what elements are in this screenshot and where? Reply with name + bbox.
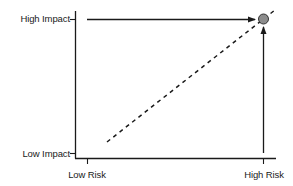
high-risk-high-impact-point [259,14,269,24]
x-axis-low-label: Low Risk [68,170,106,180]
y-axis-low-label: Low Impact [22,149,70,159]
x-axis-high-label: High Risk [244,170,284,180]
y-axis-high-label: High Impact [20,14,70,24]
dashed-trend-line [107,10,275,142]
risk-impact-diagram: High Impact Low Impact Low Risk High Ris… [0,0,293,186]
